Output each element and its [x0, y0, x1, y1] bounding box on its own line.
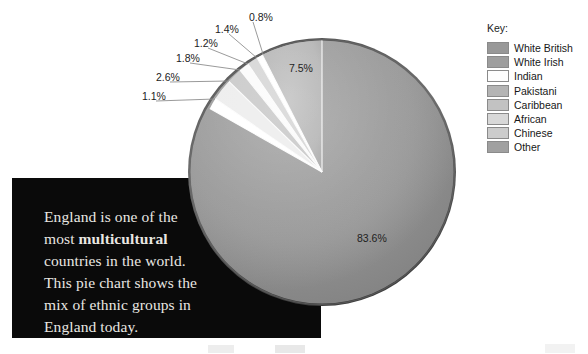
pie-label-7-5: 7.5%: [289, 62, 313, 74]
legend-item[interactable]: Caribbean: [487, 98, 573, 112]
slice-african: [240, 64, 322, 172]
legend-item[interactable]: Other: [487, 140, 573, 154]
caption-box: England is one of the most multicultural…: [12, 178, 321, 338]
leader-line-1-8: [190, 63, 240, 70]
caption-line-6: England today.: [44, 318, 138, 335]
scan-artifact: [275, 345, 305, 353]
pie-label-1-2: 1.2%: [194, 37, 218, 49]
caption-text: England is one of the most multicultural…: [44, 206, 244, 338]
legend-item-label: Caribbean: [514, 99, 562, 111]
leader-line-1-4: [229, 34, 257, 58]
caption-line-3: countries in the world.: [44, 252, 186, 269]
slice-caribbean: [229, 70, 322, 172]
legend-item-label: Other: [514, 141, 540, 153]
legend-item[interactable]: Pakistani: [487, 84, 573, 98]
legend-swatch: [487, 113, 509, 125]
pie-label-0-8: 0.8%: [249, 11, 273, 23]
slice-indian: [210, 99, 322, 172]
scan-artifact: [208, 345, 234, 353]
pie-label-1-8: 1.8%: [176, 52, 200, 64]
leader-line-0-8: [253, 22, 263, 54]
legend-swatch: [487, 70, 509, 82]
pie-label-1-1: 1.1%: [142, 90, 166, 102]
legend-swatch: [487, 85, 509, 97]
slice-white-irish: [262, 40, 322, 172]
legend-title: Key:: [487, 22, 573, 34]
pie-label-1-4: 1.4%: [215, 23, 239, 35]
legend-item-label: White Irish: [514, 56, 564, 68]
legend-item[interactable]: Chinese: [487, 126, 573, 140]
legend-item[interactable]: African: [487, 112, 573, 126]
legend-item-label: Chinese: [514, 127, 553, 139]
chart-page: England is one of the most multicultural…: [0, 0, 588, 354]
slice-separators: [210, 41, 322, 173]
legend-item-label: Pakistani: [514, 85, 557, 97]
legend-item-label: Indian: [514, 70, 543, 82]
legend-swatch: [487, 141, 509, 153]
leader-line-1-2: [208, 48, 248, 64]
scan-artifact: [545, 344, 575, 353]
legend-item-label: African: [514, 113, 547, 125]
caption-line-5: mix of ethnic groups in: [44, 296, 191, 313]
legend-item[interactable]: Indian: [487, 69, 573, 83]
caption-line-2-prefix: most: [44, 230, 79, 247]
slice-pakistani: [215, 81, 322, 172]
caption-line-2-bold: multicultural: [79, 230, 168, 247]
pie-label-2-6: 2.6%: [156, 71, 180, 83]
legend-swatch: [487, 99, 509, 111]
legend: Key: White BritishWhite IrishIndianPakis…: [487, 22, 573, 155]
pie-label-83-6: 83.6%: [357, 232, 387, 244]
slice-chinese: [248, 58, 322, 172]
legend-item[interactable]: White British: [487, 41, 573, 55]
leader-lines: [156, 22, 263, 101]
legend-rows: White BritishWhite IrishIndianPakistaniC…: [487, 41, 573, 155]
legend-swatch: [487, 56, 509, 68]
caption-line-4: This pie chart shows the: [44, 274, 197, 291]
legend-swatch: [487, 127, 509, 139]
legend-item-label: White British: [514, 42, 573, 54]
legend-item[interactable]: White Irish: [487, 55, 573, 69]
legend-swatch: [487, 42, 509, 54]
caption-line-1: England is one of the: [44, 208, 178, 225]
